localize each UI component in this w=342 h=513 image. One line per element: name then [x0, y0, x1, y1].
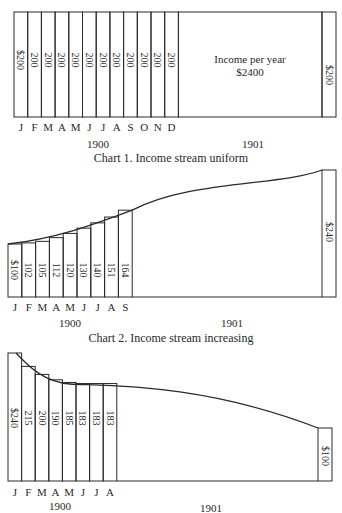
chart2-caption: Chart 2. Income stream increasing — [0, 331, 342, 346]
chart2-month-label: S — [122, 301, 128, 313]
chart2-trend-curve — [8, 170, 322, 244]
chart1-bar-value: 200 — [29, 53, 40, 68]
chart1-bar-value: 200 — [166, 53, 177, 68]
chart3-month-label: J — [81, 486, 86, 498]
chart1-month-label: O — [140, 121, 148, 133]
chart1-final-bar-value: $200 — [324, 65, 335, 85]
chart3-bar-value: 183 — [105, 411, 116, 426]
chart1: $200J200F200M200A200M200J200J200A200S200… — [14, 12, 336, 150]
chart1-year-1901: 1901 — [242, 138, 264, 150]
chart2-bar-value: 164 — [120, 263, 131, 278]
chart1-caption: Chart 1. Income stream uniform — [0, 151, 342, 166]
chart3-bar-value: 200 — [37, 411, 48, 426]
chart2-bar-value: 120 — [65, 263, 76, 278]
chart3-month-label: F — [25, 486, 31, 498]
chart1-month-label: J — [19, 121, 24, 133]
chart2-year-1901: 1901 — [221, 317, 243, 329]
chart1-month-label: J — [87, 121, 92, 133]
chart3-bar — [49, 380, 63, 481]
chart2-bar-value: 151 — [106, 263, 117, 278]
chart3-final-bar-value: $100 — [320, 446, 331, 466]
chart1-bar-value: 200 — [56, 53, 67, 68]
chart3-bar — [76, 384, 90, 481]
chart3-month-label: A — [52, 486, 60, 498]
chart1-bar-value: 200 — [70, 53, 81, 68]
chart1-month-label: F — [31, 121, 37, 133]
chart3-month-label: J — [13, 486, 18, 498]
chart2-bar-value: 140 — [92, 263, 103, 278]
chart2-month-label: M — [38, 301, 48, 313]
chart3-bar — [103, 384, 117, 481]
chart2-bar — [118, 210, 132, 297]
chart3-bar — [90, 384, 104, 481]
chart3-year-1900: 1900 — [49, 500, 72, 512]
chart3-bar-value: $240 — [9, 408, 20, 428]
chart3-bar-value: 183 — [91, 411, 102, 426]
chart1-bar-value: 200 — [152, 53, 163, 68]
chart1-bar-value: 200 — [84, 53, 95, 68]
chart1-bar-value: 200 — [43, 53, 54, 68]
chart1-month-label: M — [43, 121, 53, 133]
charts-canvas: $200J200F200M200A200M200J200J200A200S200… — [0, 0, 342, 513]
chart3-year-1901: 1901 — [200, 502, 222, 513]
chart1-bar-value: 200 — [139, 53, 150, 68]
chart2: $100J102F105M112A120M130J140J151A164S$24… — [8, 170, 336, 329]
chart3-bar-value: 215 — [23, 411, 34, 426]
chart3-bar — [62, 382, 76, 481]
chart2-bar — [105, 217, 119, 297]
chart1-annotation: Income per year — [214, 53, 286, 65]
chart2-month-label: A — [108, 301, 116, 313]
chart2-month-label: A — [52, 301, 60, 313]
chart1-bar-value: $200 — [15, 50, 26, 70]
chart2-bar-value: 130 — [78, 263, 89, 278]
chart2-month-label: J — [96, 301, 101, 313]
chart2-year-1900: 1900 — [59, 317, 82, 329]
chart1-bar-value: 200 — [125, 53, 136, 68]
chart3-bar-value: 183 — [77, 411, 88, 426]
chart1-bar-value: 200 — [98, 53, 109, 68]
chart1-month-label: N — [154, 121, 162, 133]
chart3-month-label: J — [94, 486, 99, 498]
chart1-month-label: D — [168, 121, 176, 133]
chart3-bar-value: 185 — [64, 411, 75, 426]
chart1-month-label: J — [101, 121, 106, 133]
chart1-month-label: M — [71, 121, 81, 133]
chart1-month-label: A — [113, 121, 121, 133]
chart1-year-1900: 1900 — [87, 138, 110, 150]
chart2-final-bar-value: $240 — [324, 222, 335, 242]
chart2-bar-value: $100 — [9, 260, 20, 280]
chart2-bar-value: 105 — [37, 263, 48, 278]
chart2-month-label: M — [65, 301, 75, 313]
chart3-bar-value: 190 — [50, 411, 61, 426]
chart1-bar-value: 200 — [111, 53, 122, 68]
chart3: $240J215F200M190A185M183J183J183A$100190… — [8, 353, 332, 513]
chart2-bar-value: 112 — [51, 263, 62, 278]
chart3-bar — [35, 374, 49, 481]
chart2-bar-value: 102 — [23, 263, 34, 278]
chart1-month-label: S — [127, 121, 133, 133]
chart2-month-label: F — [26, 301, 32, 313]
chart2-month-label: J — [13, 301, 18, 313]
chart3-month-label: M — [37, 486, 47, 498]
chart3-month-label: M — [64, 486, 74, 498]
chart2-bar — [91, 223, 105, 297]
chart3-month-label: A — [106, 486, 114, 498]
chart1-annotation-amount: $2400 — [236, 66, 264, 78]
chart2-month-label: J — [82, 301, 87, 313]
chart1-month-label: A — [58, 121, 66, 133]
